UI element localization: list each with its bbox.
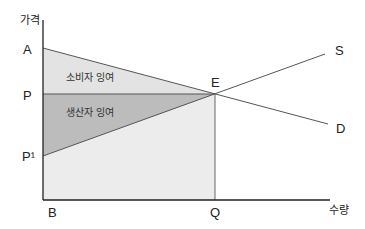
- x-axis-label: 수량: [329, 205, 349, 216]
- y-axis-label: 가격: [20, 15, 40, 26]
- point-q-label: Q: [210, 206, 220, 219]
- demand-d-label: D: [336, 122, 345, 135]
- consumer-surplus-label: 소비자 잉여: [66, 73, 114, 83]
- supply-s-label: S: [335, 44, 344, 57]
- producer-surplus-label: 생산자 잉여: [66, 108, 114, 118]
- surplus-diagram: [0, 0, 365, 229]
- point-p-label: P: [23, 89, 32, 102]
- point-p1-label: P¹: [22, 150, 35, 163]
- point-b-label: B: [48, 206, 57, 219]
- point-a-label: A: [23, 43, 32, 56]
- equilibrium-e-label: E: [211, 76, 220, 89]
